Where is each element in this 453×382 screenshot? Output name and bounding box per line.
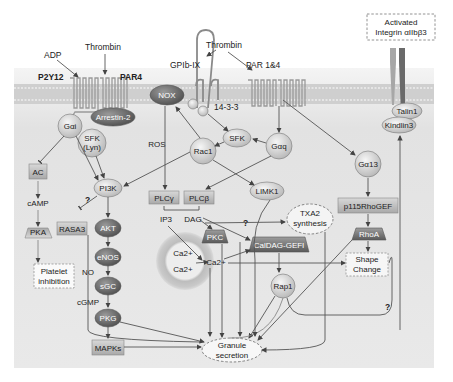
dag-label: DAG — [184, 215, 201, 224]
thrombin-right-label: Thrombin — [206, 40, 242, 50]
talin1-label: Talin1 — [397, 107, 418, 116]
rhoa-label: RhoA — [359, 230, 380, 239]
shape-change-label-2: Change — [353, 265, 382, 274]
plcb-label: PLCβ — [189, 194, 210, 203]
camp-label: cAMP — [27, 199, 48, 208]
granule-label-1: Granule — [218, 341, 247, 350]
pi3k-label: PI3K — [99, 184, 117, 193]
caldag-gefi-label: CalDAG-GEFI — [254, 241, 305, 250]
rap1-label: Rap1 — [273, 282, 293, 291]
pathway-canvas: NOX Arrestin-2 Gαi SFK (Lyn) SFK Rac1 Gα… — [0, 0, 453, 382]
integrin-label-1: Activated — [385, 18, 418, 27]
ros-label: ROS — [148, 140, 165, 149]
par4-label: PAR4 — [120, 72, 142, 82]
pka-label: PKA — [30, 228, 47, 237]
shape-change-label-1: Shape — [355, 255, 379, 264]
limk1-label: LIMK1 — [255, 187, 279, 196]
cytoplasm-region — [14, 68, 434, 368]
adaptor-1433-label: 14-3-3 — [214, 102, 239, 112]
pathway-diagram: NOX Arrestin-2 Gαi SFK (Lyn) SFK Rac1 Gα… — [0, 0, 453, 382]
gpib-ix-label: GPIb-IX — [170, 60, 201, 70]
granule-label-2: secretion — [216, 351, 248, 360]
gai-label: Gαi — [64, 122, 77, 131]
platelet-inhibition-label-1: Platelet — [41, 267, 68, 276]
integrin-label-2: Integrin αIIbβ3 — [375, 28, 427, 37]
txa2-label-1: TXA2 — [300, 209, 321, 218]
enos-label: eNOS — [97, 253, 119, 262]
ca-cyto-label: Ca2+ — [206, 258, 226, 267]
thrombin-left-label: Thrombin — [85, 42, 121, 52]
sfk-label: SFK — [229, 134, 245, 143]
ac-label: AC — [32, 168, 43, 177]
sfk-lyn-label-2: (Lyn) — [83, 143, 101, 152]
akt-label: AKT — [100, 224, 116, 233]
kindlin3-label: Kindlin3 — [385, 121, 414, 130]
plcg-label: PLCγ — [154, 194, 174, 203]
sgc-label: sGC — [100, 282, 116, 291]
nox-label: NOX — [158, 91, 176, 100]
p2y12-label: P2Y12 — [38, 72, 64, 82]
pkc-label: PKC — [207, 233, 224, 242]
sfk-lyn-label-1: SFK — [84, 134, 100, 143]
rac1-label: Rac1 — [194, 147, 213, 156]
gaq-label: Gαq — [271, 142, 286, 151]
p115rhogef-label: p115RhoGEF — [344, 202, 392, 211]
txa2-label-2: synthesis — [293, 219, 326, 228]
ga13-label: Gα13 — [358, 160, 378, 169]
ca-store-label-1: Ca2+ — [173, 249, 193, 258]
mapks-label: MAPKs — [95, 344, 122, 353]
adp-label: ADP — [44, 50, 62, 60]
par14-label: PAR 1&4 — [246, 60, 281, 70]
ca-store-label-2: Ca2+ — [173, 265, 193, 274]
rasa3-label: RASA3 — [59, 225, 86, 234]
platelet-inhibition-label-2: inhibition — [38, 277, 70, 286]
pkg-label: PKG — [100, 314, 117, 323]
arrestin2-label: Arrestin-2 — [96, 113, 131, 122]
ip3-label: IP3 — [160, 215, 173, 224]
adaptor-ball-2 — [198, 106, 208, 116]
question-mark-txa2: ? — [243, 218, 248, 228]
adaptor-ball-1 — [188, 99, 198, 109]
